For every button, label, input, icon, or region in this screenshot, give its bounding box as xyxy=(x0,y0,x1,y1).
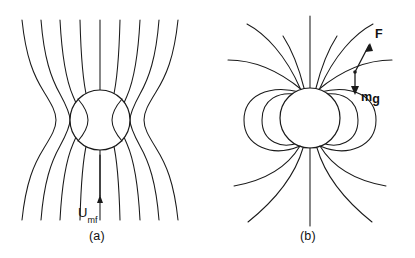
particle-a xyxy=(70,90,130,150)
panel-b-upper-streamlines xyxy=(228,16,392,92)
force-label-mg-g: g xyxy=(372,92,380,106)
figure-bottom-caption xyxy=(6,250,406,258)
streamline xyxy=(228,60,302,90)
flow-arrow xyxy=(97,155,103,203)
streamline xyxy=(22,20,56,220)
panel-b-lower-streamlines xyxy=(234,146,386,226)
force-label-F: F xyxy=(375,28,383,41)
streamline xyxy=(144,20,178,220)
force-vector-F xyxy=(353,43,373,74)
force-label-mg-m: m xyxy=(361,90,372,104)
panel-b xyxy=(228,16,392,226)
particle-b xyxy=(280,88,340,148)
panel-caption-a: (a) xyxy=(89,230,105,243)
velocity-label-umf: Umf xyxy=(78,206,97,223)
streamline xyxy=(317,148,372,222)
streamline xyxy=(234,146,300,186)
velocity-label-subscript: mf xyxy=(87,215,97,225)
streamline xyxy=(248,148,303,222)
figure-canvas xyxy=(0,0,415,258)
velocity-label-base: U xyxy=(78,205,87,220)
panel-caption-b: (b) xyxy=(300,230,316,243)
force-label-mg: mg xyxy=(361,88,380,104)
panel-a xyxy=(22,20,178,220)
streamline xyxy=(320,24,373,88)
streamline xyxy=(247,24,300,88)
streamline xyxy=(320,146,386,186)
